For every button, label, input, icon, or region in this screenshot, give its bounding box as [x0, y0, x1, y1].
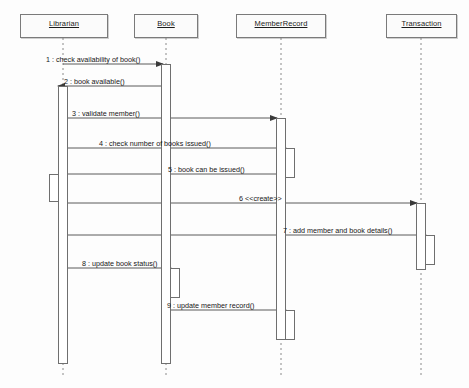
activation-bar-act-member-nested-2[interactable]: [285, 310, 295, 340]
lifeline-label-book: Book: [157, 19, 175, 28]
lifeline-header-transaction[interactable]: Transaction: [386, 14, 457, 38]
lifeline-label-transaction: Transaction: [401, 19, 441, 28]
message-label-2: 2 : book available(): [64, 77, 125, 86]
message-label-7: 7 : add member and book details(): [283, 226, 392, 235]
message-label-8: 8 : update book status(): [82, 259, 158, 268]
message-label-6: 6 <<create>>: [239, 194, 282, 203]
lifeline-dashes: [63, 38, 421, 378]
message-label-5: 5 : book can be issued(): [168, 165, 245, 174]
lifeline-label-librarian: Librarian: [49, 19, 79, 28]
activation-bar-act-book-main[interactable]: [161, 64, 171, 364]
sequence-diagram-canvas: LibrarianBookMemberRecordTransaction 1 :…: [0, 0, 469, 388]
activation-bar-act-member-nested-1[interactable]: [285, 148, 295, 178]
activation-bar-act-librarian-main[interactable]: [58, 86, 68, 364]
activation-bar-act-book-nested[interactable]: [170, 268, 180, 298]
message-label-9: 9 : update member record(): [167, 301, 255, 310]
lifeline-header-librarian[interactable]: Librarian: [20, 14, 108, 38]
message-label-1: 1 : check availability of book(): [46, 55, 140, 64]
activation-bar-act-librarian-return[interactable]: [49, 174, 59, 202]
lifeline-header-book[interactable]: Book: [134, 14, 198, 38]
lifeline-label-memberrecord: MemberRecord: [255, 19, 308, 28]
lifeline-header-memberrecord[interactable]: MemberRecord: [236, 14, 326, 38]
message-arrows: [58, 64, 426, 310]
activation-bar-act-transaction-nested[interactable]: [425, 235, 435, 265]
message-label-4: 4 : check number of books issued(): [99, 139, 211, 148]
message-label-3: 3 : validate member(): [72, 109, 140, 118]
